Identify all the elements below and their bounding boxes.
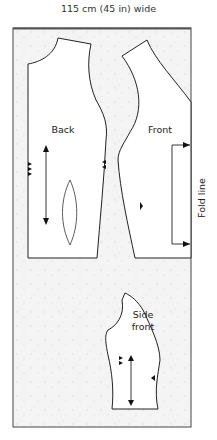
side-front-label-line2: front — [132, 321, 155, 332]
pattern-layout-diagram: Back Front Side front Fold line — [0, 0, 217, 440]
front-label: Front — [148, 124, 172, 135]
side-front-label-line1: Side — [133, 309, 154, 320]
fold-line-label: Fold line — [196, 178, 207, 218]
back-label: Back — [51, 124, 75, 135]
